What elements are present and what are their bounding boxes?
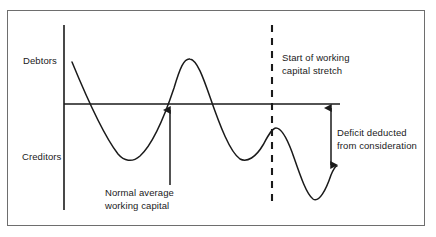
annotation-normal-average-working-capital: Normal average working capital — [105, 186, 174, 212]
annotation-deficit-deducted-from-consideration: Deficit deducted from consideration — [337, 126, 417, 152]
axis-label-creditors: Creditors — [22, 150, 61, 163]
annotation-start-of-working-capital-stretch: Start of working capital stretch — [282, 51, 350, 77]
chart-canvas — [0, 0, 436, 237]
working-capital-curve — [72, 59, 337, 200]
axis-label-debtors: Debtors — [23, 54, 57, 67]
working-capital-figure: Debtors Creditors Start of working capit… — [0, 0, 436, 237]
